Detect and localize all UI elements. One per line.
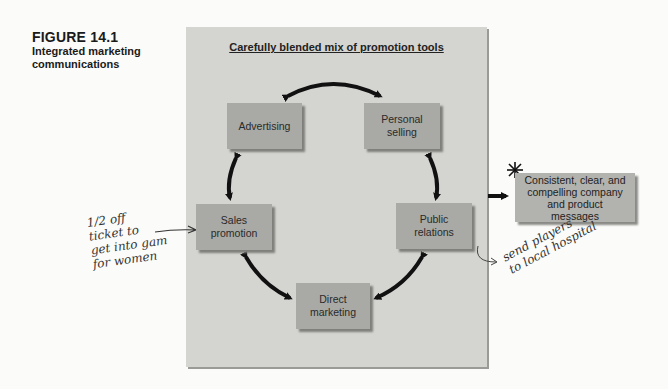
tool-label: Public relations [410, 213, 458, 239]
tool-label: Direct marketing [306, 293, 360, 319]
handwritten-note-sales-promotion: 1/2 off ticket to get into gam for women [86, 205, 170, 271]
tool-box-advertising: Advertising [227, 103, 302, 149]
arrow-sales-promotion-direct-marketing [246, 257, 290, 298]
tool-label: Advertising [239, 120, 291, 133]
arrow-public-relations-direct-marketing [376, 257, 422, 298]
tool-box-personal-selling: Personal selling [364, 103, 440, 149]
tool-label: Personal selling [376, 113, 428, 139]
tool-box-public-relations: Public relations [396, 203, 472, 249]
tool-box-direct-marketing: Direct marketing [296, 283, 370, 329]
arrow-personal-selling-public-relations [430, 158, 437, 198]
arrow-advertising-personal-selling [288, 84, 380, 96]
tool-box-sales-promotion: Sales promotion [196, 204, 272, 250]
hand-arrow-public-relations [477, 246, 497, 265]
tool-label: Sales promotion [208, 214, 260, 240]
arrow-advertising-sales-promotion [229, 158, 236, 198]
